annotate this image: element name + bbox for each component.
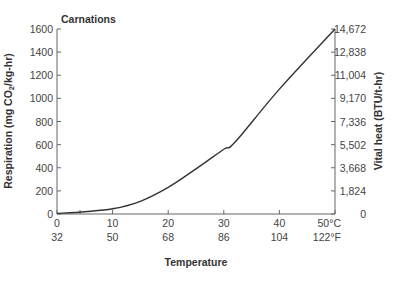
x-tick-label-f: 50 <box>107 231 119 243</box>
y-tick-label: 800 <box>35 116 53 128</box>
y-tick-label: 1600 <box>30 23 54 35</box>
y-tick-label: 1000 <box>30 92 54 104</box>
x-tick-label-c: 50°C <box>318 217 342 229</box>
y-tick-label: 200 <box>35 185 53 197</box>
y2-tick-label: 12,838 <box>334 46 366 58</box>
x-axis-ticks: 0321050206830864010450°C122°F <box>51 210 341 243</box>
x-tick-label-c: 30 <box>218 217 230 229</box>
y-tick-label: 1400 <box>30 46 54 58</box>
x-tick-label-f: 122°F <box>313 231 341 243</box>
y-tick-label: 0 <box>47 208 53 220</box>
y2-tick-label: 9,170 <box>340 92 366 104</box>
chart: Carnations 02004006008001000120014001600… <box>0 0 402 281</box>
x-tick-label-f: 32 <box>51 231 63 243</box>
x-tick-label-c: 10 <box>107 217 119 229</box>
y2-tick-label: 14,672 <box>334 23 366 35</box>
x-tick-label-f: 86 <box>218 231 230 243</box>
y-axis-ticks: 02004006008001000120014001600 <box>30 23 61 220</box>
carnations-curve <box>57 29 335 213</box>
y-axis-title: Respiration (mg CO2/kg-hr) <box>2 53 16 188</box>
y2-tick-label: 5,502 <box>340 139 366 151</box>
x-tick-label-f: 104 <box>271 231 289 243</box>
x-axis-title: Temperature <box>165 256 228 268</box>
y2-tick-label: 1,824 <box>340 185 366 197</box>
x-tick-label-c: 0 <box>54 217 60 229</box>
y2-tick-label: 0 <box>360 208 366 220</box>
y2-tick-label: 3,668 <box>340 162 366 174</box>
y-tick-label: 1200 <box>30 69 54 81</box>
x-tick-label-f: 68 <box>162 231 174 243</box>
chart-title: Carnations <box>61 13 116 25</box>
y2-axis-ticks: 01,8243,6685,5027,3369,17011,00412,83814… <box>331 23 366 220</box>
y2-tick-label: 7,336 <box>340 116 366 128</box>
y2-axis-title: Vital heat (BTU/t-hr) <box>372 72 384 170</box>
y-tick-label: 400 <box>35 162 53 174</box>
x-tick-label-c: 40 <box>274 217 286 229</box>
x-tick-label-c: 20 <box>162 217 174 229</box>
y-tick-label: 600 <box>35 139 53 151</box>
y2-tick-label: 11,004 <box>335 69 366 81</box>
